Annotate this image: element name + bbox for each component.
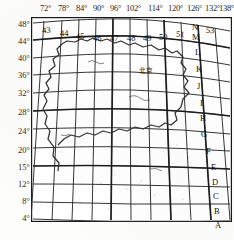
latitude-tick-5: 28° [18,107,30,117]
latitude-tick-10: 8° [22,196,30,206]
sheet-number-48[interactable]: 48 [127,34,136,43]
sheet-number-47[interactable]: 47 [110,34,119,43]
sheet-row-G[interactable]: G [201,130,207,139]
map-figure: 72° 78° 84° 90° 96° 102° 114° 120° 126° … [0,0,234,240]
sheet-number-50[interactable]: 50 [159,33,168,42]
sheet-row-I[interactable]: I [200,99,203,108]
latitude-tick-6: 24° [18,126,30,136]
latitude-tick-3: 36° [18,70,30,80]
sheet-row-J[interactable]: J [197,82,200,91]
latitude-tick-8: 15° [18,162,30,172]
longitude-tick-9: 132° [205,3,220,13]
sheet-number-51[interactable]: 51 [176,30,185,39]
longitude-tick-2: 84° [76,3,87,13]
latitude-tick-0: 48° [18,19,30,29]
sheet-row-H[interactable]: H [200,114,206,123]
longitude-tick-3: 90° [93,3,104,13]
sheet-number-53[interactable]: 53 [206,26,215,35]
sheet-number-44[interactable]: 44 [60,29,69,38]
longitude-axis: 72° 78° 84° 90° 96° 102° 114° 120° 126° … [0,3,234,16]
sheet-row-E[interactable]: E [211,163,216,172]
latitude-tick-1: 44° [18,36,30,46]
longitude-tick-7: 120° [168,3,183,13]
latitude-axis: 48° 44° 40° 36° 32° 28° 24° 20° 15° 12° … [0,0,32,240]
sheet-number-43[interactable]: 43 [42,26,51,35]
longitude-tick-6: 114° [148,3,163,13]
sheet-row-A[interactable]: A [215,221,221,230]
sheet-number-46[interactable]: 46 [93,34,102,43]
sheet-row-M[interactable]: M [192,33,200,42]
latitude-tick-2: 40° [18,53,30,63]
sheet-row-N[interactable]: N [192,23,198,32]
latitude-tick-4: 32° [18,88,30,98]
sheet-row-D[interactable]: D [212,178,218,187]
longitude-tick-1: 78° [58,3,69,13]
latitude-tick-7: 20° [18,145,30,155]
longitude-tick-8: 126° [187,3,202,13]
longitude-tick-10: 138° [219,3,234,13]
longitude-tick-0: 72° [40,3,51,13]
sheet-number-45[interactable]: 45 [76,32,85,41]
longitude-tick-4: 96° [110,3,121,13]
sheet-row-L[interactable]: L [195,48,200,57]
sheet-number-49[interactable]: 49 [143,34,152,43]
sheet-row-F[interactable]: F [206,147,211,156]
sheet-row-B[interactable]: B [214,207,220,216]
sheet-row-C[interactable]: C [213,192,219,201]
city-label-beijing: 北京 [139,68,152,75]
longitude-tick-5: 102° [126,3,141,13]
sheet-row-K[interactable]: K [196,65,202,74]
latitude-tick-11: 4° [22,213,30,223]
latitude-tick-9: 12° [18,179,30,189]
